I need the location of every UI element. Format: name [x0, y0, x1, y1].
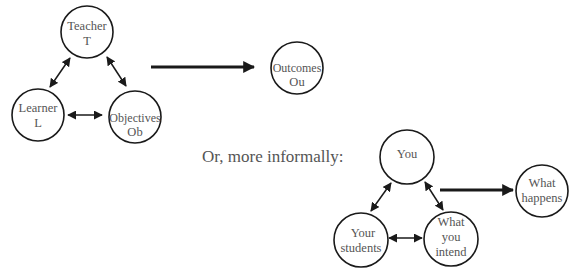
node-your-students: Your students — [334, 213, 388, 267]
formal-diagram: Teacher T Learner L Objectives Ob Outcom… — [12, 6, 323, 143]
node-teacher: Teacher T — [61, 6, 113, 58]
node-what-you-intend: What you intend — [424, 212, 478, 266]
learner-label: Learner — [19, 101, 59, 115]
diagram-canvas: Teacher T Learner L Objectives Ob Outcom… — [0, 0, 579, 275]
teacher-symbol: T — [83, 34, 91, 48]
you-intend-arrow — [425, 182, 443, 210]
you-label: You — [397, 147, 418, 161]
outcomes-label: Outcomes — [273, 61, 322, 75]
students-label-line2: students — [341, 241, 382, 255]
node-learner: Learner L — [12, 89, 64, 141]
outcomes-symbol: Ou — [289, 75, 305, 89]
teacher-label: Teacher — [67, 19, 107, 33]
node-objectives: Objectives Ob — [109, 91, 161, 143]
learner-symbol: L — [34, 116, 42, 130]
you-students-arrow — [371, 183, 391, 211]
informal-diagram: You Your students What you intend What h… — [334, 130, 568, 267]
happens-label-line1: What — [528, 176, 556, 190]
objectives-symbol: Ob — [127, 125, 142, 139]
intend-label-line1: What — [437, 215, 465, 229]
teacher-learner-arrow — [50, 58, 70, 87]
node-what-happens: What happens — [516, 165, 568, 217]
node-you: You — [380, 130, 434, 184]
teacher-objectives-arrow — [107, 57, 126, 86]
informal-caption: Or, more informally: — [202, 147, 343, 167]
students-label-line1: Your — [351, 226, 376, 240]
happens-label-line2: happens — [522, 191, 563, 205]
objectives-label: Objectives — [109, 111, 161, 125]
intend-label-line2: you — [442, 230, 462, 244]
intend-label-line3: intend — [435, 245, 467, 259]
node-outcomes: Outcomes Ou — [271, 42, 323, 94]
